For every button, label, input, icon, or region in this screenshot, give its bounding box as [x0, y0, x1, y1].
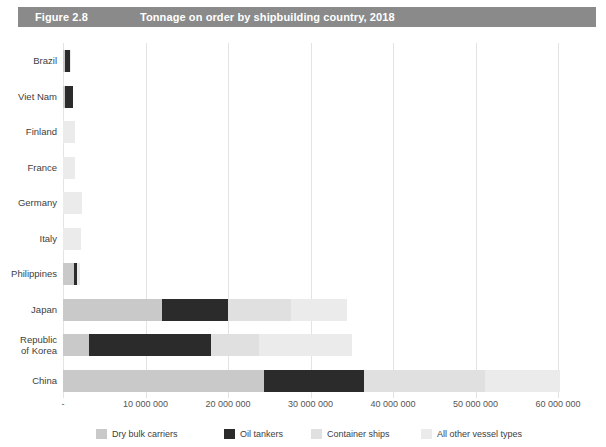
- figure-header-band: Figure 2.8 Tonnage on order by shipbuild…: [18, 7, 596, 27]
- stacked-bar-brazil[interactable]: [63, 50, 71, 72]
- legend-item-oil-tankers[interactable]: Oil tankers: [224, 429, 283, 439]
- legend-item-dry-bulk-carriers[interactable]: Dry bulk carriers: [96, 429, 178, 439]
- x-axis-tick-1: 10 000 000: [123, 399, 168, 409]
- chart-legend: Dry bulk carriersOil tankersContainer sh…: [0, 425, 606, 443]
- bar-segment-all-other-vessel-types[interactable]: [77, 263, 80, 285]
- bar-segment-dry-bulk-carriers[interactable]: [63, 299, 162, 321]
- y-axis-label-china: China: [0, 375, 57, 386]
- y-axis-label-republic-of-korea: Republicof Korea: [0, 334, 57, 356]
- y-axis-labels: BrazilViet NamFinlandFranceGermanyItalyP…: [0, 43, 57, 398]
- bar-segment-all-other-vessel-types[interactable]: [291, 299, 347, 321]
- bar-segment-dry-bulk-carriers[interactable]: [63, 370, 264, 392]
- bar-segment-container-ships[interactable]: [211, 334, 259, 356]
- stacked-bar-italy[interactable]: [63, 228, 81, 250]
- legend-label: All other vessel types: [437, 429, 522, 439]
- bar-segment-all-other-vessel-types[interactable]: [63, 157, 75, 179]
- y-axis-label-brazil: Brazil: [0, 55, 57, 66]
- legend-item-all-other-vessel-types[interactable]: All other vessel types: [421, 429, 522, 439]
- bar-row: [63, 256, 558, 292]
- bar-row: [63, 327, 558, 363]
- bar-row: [63, 79, 558, 115]
- bar-segment-all-other-vessel-types[interactable]: [70, 50, 72, 72]
- bar-segment-dry-bulk-carriers[interactable]: [63, 334, 89, 356]
- bar-segment-all-other-vessel-types[interactable]: [63, 228, 81, 250]
- bar-row: [63, 185, 558, 221]
- legend-swatch-icon: [311, 429, 322, 439]
- x-axis-tick-4: 40 000 000: [370, 399, 415, 409]
- x-axis-tick-3: 30 000 000: [288, 399, 333, 409]
- bar-segment-dry-bulk-carriers[interactable]: [63, 263, 74, 285]
- y-axis-label-viet-nam: Viet Nam: [0, 91, 57, 102]
- x-axis-labels: -10 000 00020 000 00030 000 00040 000 00…: [0, 399, 606, 415]
- legend-item-container-ships[interactable]: Container ships: [311, 429, 390, 439]
- x-axis-tick-6: 60 000 000: [535, 399, 580, 409]
- stacked-bar-viet-nam[interactable]: [63, 86, 73, 108]
- bar-segment-all-other-vessel-types[interactable]: [63, 121, 75, 143]
- bar-segment-oil-tankers[interactable]: [264, 370, 364, 392]
- stacked-bar-finland[interactable]: [63, 121, 75, 143]
- plot-area: [63, 43, 558, 398]
- y-axis-label-france: France: [0, 162, 57, 173]
- y-axis-label-finland: Finland: [0, 126, 57, 137]
- bar-segment-oil-tankers[interactable]: [89, 334, 211, 356]
- stacked-bar-germany[interactable]: [63, 192, 82, 214]
- y-axis-label-italy: Italy: [0, 233, 57, 244]
- legend-label: Oil tankers: [240, 429, 283, 439]
- bar-segment-oil-tankers[interactable]: [162, 299, 228, 321]
- bar-row: [63, 221, 558, 257]
- stacked-bar-philippines[interactable]: [63, 263, 80, 285]
- legend-label: Container ships: [327, 429, 390, 439]
- bar-row: [63, 150, 558, 186]
- bar-row: [63, 114, 558, 150]
- stacked-bar-france[interactable]: [63, 157, 75, 179]
- legend-swatch-icon: [421, 429, 432, 439]
- bar-segment-all-other-vessel-types[interactable]: [485, 370, 561, 392]
- figure-number: Figure 2.8: [35, 11, 88, 23]
- stacked-bar-china[interactable]: [63, 370, 560, 392]
- legend-label: Dry bulk carriers: [112, 429, 178, 439]
- figure-container: Figure 2.8 Tonnage on order by shipbuild…: [0, 0, 606, 447]
- legend-swatch-icon: [96, 429, 107, 439]
- stacked-bar-japan[interactable]: [63, 299, 347, 321]
- figure-title: Tonnage on order by shipbuilding country…: [140, 11, 395, 23]
- legend-swatch-icon: [224, 429, 235, 439]
- x-axis-tick-2: 20 000 000: [205, 399, 250, 409]
- stacked-bar-republic-of-korea[interactable]: [63, 334, 352, 356]
- y-axis-label-philippines: Philippines: [0, 268, 57, 279]
- y-axis-label-germany: Germany: [0, 197, 57, 208]
- y-axis-label-japan: Japan: [0, 304, 57, 315]
- bar-segment-all-other-vessel-types[interactable]: [63, 192, 82, 214]
- bar-row: [63, 363, 558, 399]
- bar-segment-container-ships[interactable]: [364, 370, 484, 392]
- gridline-6: [558, 43, 559, 398]
- bar-segment-all-other-vessel-types[interactable]: [259, 334, 351, 356]
- bar-segment-oil-tankers[interactable]: [65, 86, 73, 108]
- bar-row: [63, 292, 558, 328]
- bar-row: [63, 43, 558, 79]
- bar-segment-container-ships[interactable]: [228, 299, 291, 321]
- x-axis-tick-0: -: [62, 399, 65, 409]
- x-axis-tick-5: 50 000 000: [453, 399, 498, 409]
